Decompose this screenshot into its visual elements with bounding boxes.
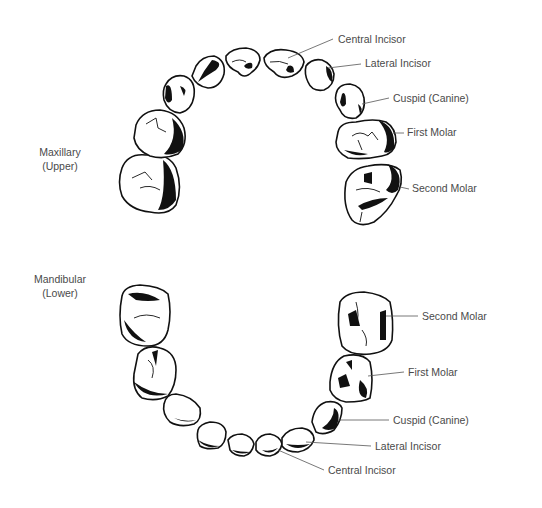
dental-arch-diagram — [0, 0, 542, 508]
upper-left-lateral-incisor — [192, 56, 224, 88]
upper-left-cuspid — [163, 76, 194, 113]
mandibular-title: Mandibular (Lower) — [15, 272, 105, 300]
upper-right-cuspid — [336, 84, 365, 118]
lower-left-second-molar — [120, 285, 170, 346]
maxillary-title-line1: Maxillary — [15, 145, 105, 159]
upper-left-second-molar — [120, 155, 180, 214]
lower-right-lateral-incisor — [282, 428, 314, 452]
label-lower-central-incisor: Central Incisor — [328, 464, 396, 476]
upper-left-central-incisor — [226, 48, 260, 76]
upper-right-first-molar — [336, 120, 396, 159]
leader-upper-lateral-incisor — [328, 64, 361, 68]
label-upper-second-molar: Second Molar — [412, 182, 477, 194]
upper-right-lateral-incisor — [305, 60, 334, 91]
leader-lower-lateral-incisor — [306, 442, 371, 446]
label-lower-lateral-incisor: Lateral Incisor — [375, 440, 441, 452]
lower-right-cuspid — [312, 402, 342, 434]
label-lower-cuspid: Cuspid (Canine) — [393, 414, 469, 426]
maxillary-title-line2: (Upper) — [15, 159, 105, 173]
mandibular-title-line1: Mandibular — [15, 272, 105, 286]
lower-right-first-molar — [330, 355, 372, 402]
maxillary-title: Maxillary (Upper) — [15, 145, 105, 173]
lower-left-central-incisor — [228, 434, 254, 456]
label-upper-cuspid: Cuspid (Canine) — [393, 92, 469, 104]
label-upper-lateral-incisor: Lateral Incisor — [365, 57, 431, 69]
leader-lower-first-molar — [368, 372, 404, 376]
upper-left-first-molar — [134, 110, 185, 158]
upper-right-second-molar — [345, 164, 401, 225]
leader-upper-central-incisor — [288, 39, 333, 58]
label-lower-first-molar: First Molar — [408, 366, 458, 378]
label-lower-second-molar: Second Molar — [422, 310, 487, 322]
mandibular-title-line2: (Lower) — [15, 286, 105, 300]
label-upper-central-incisor: Central Incisor — [338, 33, 406, 45]
lower-right-central-incisor — [256, 434, 282, 456]
leader-upper-second-molar — [400, 187, 409, 189]
maxillary-arch — [120, 48, 402, 225]
label-upper-first-molar: First Molar — [407, 126, 457, 138]
lower-left-cuspid — [164, 394, 201, 426]
lower-left-first-molar — [134, 347, 176, 400]
mandibular-arch — [120, 285, 393, 456]
leader-lower-central-incisor — [278, 450, 324, 470]
lower-right-second-molar — [338, 292, 392, 354]
leader-upper-cuspid — [362, 98, 389, 104]
lower-left-lateral-incisor — [197, 422, 226, 449]
